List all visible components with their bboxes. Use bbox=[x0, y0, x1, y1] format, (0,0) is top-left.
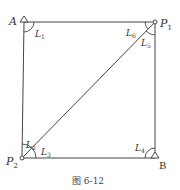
survey-diagram: A B P1 P2 L1 L2 L3 L4 L5 L6 图 6-12 bbox=[0, 0, 180, 190]
angle-arc-l5 bbox=[146, 31, 155, 35]
triangle-marker-b bbox=[151, 152, 159, 158]
angle-arc-l1 bbox=[24, 22, 34, 32]
figure-caption: 图 6-12 bbox=[72, 176, 104, 186]
circle-marker-p2 bbox=[20, 156, 24, 160]
angle-label-l3: L3 bbox=[40, 147, 51, 158]
angle-label-l2: L2 bbox=[25, 140, 36, 151]
angle-label-l6: L6 bbox=[125, 28, 136, 39]
circle-marker-p1 bbox=[153, 20, 157, 24]
angle-label-l5: L5 bbox=[140, 38, 151, 49]
angle-label-l4: L4 bbox=[134, 143, 145, 154]
point-label-b: B bbox=[159, 160, 166, 171]
edge-p2-p1 bbox=[22, 22, 155, 158]
angle-label-l1: L1 bbox=[34, 29, 45, 40]
point-label-p1: P1 bbox=[159, 17, 172, 32]
point-label-a: A bbox=[8, 15, 17, 28]
triangle-marker-a bbox=[20, 16, 28, 22]
point-label-p2: P2 bbox=[5, 155, 18, 170]
edge-p2-a bbox=[22, 22, 24, 158]
angle-arc-l6 bbox=[145, 22, 148, 29]
